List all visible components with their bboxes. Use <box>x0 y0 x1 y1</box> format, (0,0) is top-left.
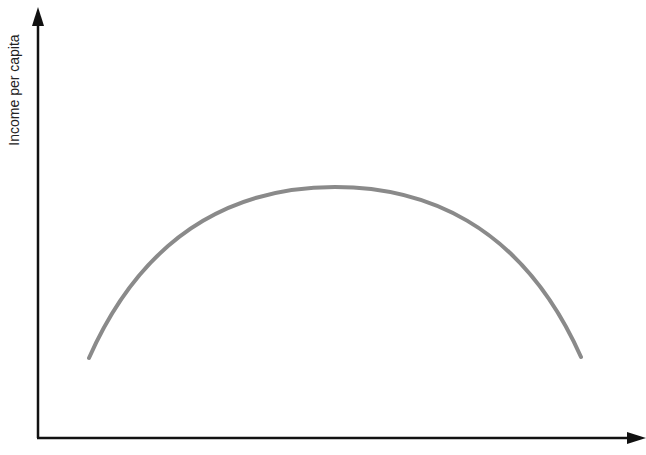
y-axis-arrow-icon <box>32 7 44 26</box>
inverted-u-curve <box>89 187 581 358</box>
diagram-canvas <box>0 0 646 455</box>
y-axis-label: Income per capita <box>6 34 22 145</box>
diagram-svg <box>0 0 646 455</box>
y-axis-label-container: Income per capita <box>4 0 24 180</box>
x-axis-arrow-icon <box>627 432 646 444</box>
